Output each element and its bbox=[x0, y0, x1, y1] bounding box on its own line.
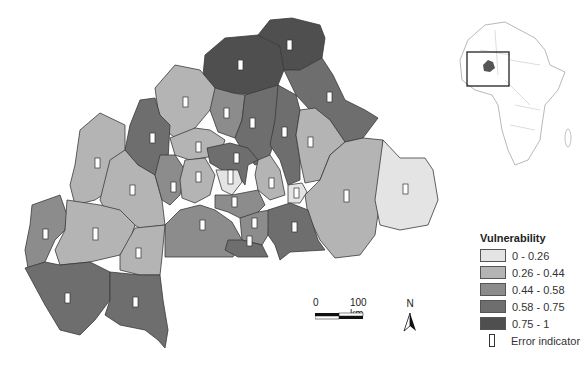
legend-item-error: Error indicator bbox=[480, 332, 585, 349]
error-indicator bbox=[234, 153, 239, 163]
legend-swatch bbox=[480, 300, 506, 313]
legend-label: 0.75 - 1 bbox=[512, 318, 549, 330]
region-poni bbox=[105, 272, 168, 348]
error-indicator bbox=[171, 182, 176, 192]
error-indicator bbox=[238, 60, 243, 70]
legend-title: Vulnerability bbox=[480, 232, 585, 244]
error-indicator-icon bbox=[489, 334, 495, 347]
error-indicator bbox=[269, 178, 274, 188]
error-indicator bbox=[136, 248, 141, 258]
legend-item: 0.44 - 0.58 bbox=[480, 281, 585, 298]
legend-item: 0.75 - 1 bbox=[480, 315, 585, 332]
legend-item: 0.26 - 0.44 bbox=[480, 264, 585, 281]
error-indicator bbox=[294, 188, 299, 198]
legend-label: 0.58 - 0.75 bbox=[512, 301, 565, 313]
error-indicator bbox=[250, 118, 255, 128]
error-indicator bbox=[344, 190, 349, 202]
error-indicator bbox=[183, 97, 188, 107]
legend-label: Error indicator bbox=[511, 335, 580, 347]
legend-label: 0.44 - 0.58 bbox=[512, 284, 565, 296]
error-indicator bbox=[224, 108, 229, 118]
legend-swatch bbox=[480, 283, 506, 296]
error-indicator bbox=[133, 297, 138, 307]
scale-start-label: 0 bbox=[313, 297, 319, 308]
legend-swatch bbox=[480, 317, 506, 330]
region-soum bbox=[203, 35, 284, 95]
legend-swatch bbox=[480, 249, 506, 262]
error-indicator bbox=[130, 185, 135, 195]
error-indicator bbox=[247, 236, 252, 246]
burkina-faso-map bbox=[0, 0, 445, 367]
error-indicator bbox=[200, 220, 205, 230]
africa-locator-map bbox=[450, 10, 585, 190]
legend: Vulnerability 0 - 0.26 0.26 - 0.44 0.44 … bbox=[480, 232, 585, 349]
error-indicator bbox=[93, 228, 98, 240]
error-indicator bbox=[232, 197, 237, 207]
legend-item: 0.58 - 0.75 bbox=[480, 298, 585, 315]
north-arrow: N bbox=[402, 298, 418, 335]
legend-label: 0.26 - 0.44 bbox=[512, 267, 565, 279]
error-indicator bbox=[196, 172, 201, 182]
error-indicator bbox=[150, 133, 155, 143]
legend-label: 0 - 0.26 bbox=[512, 250, 549, 262]
africa-outline bbox=[460, 22, 565, 165]
error-indicator bbox=[228, 170, 233, 184]
north-label: N bbox=[402, 298, 418, 309]
legend-swatch bbox=[480, 266, 506, 279]
error-indicator bbox=[43, 229, 48, 239]
error-indicator bbox=[292, 222, 297, 232]
error-indicator bbox=[308, 137, 313, 147]
legend-item: 0 - 0.26 bbox=[480, 247, 585, 264]
error-indicator bbox=[252, 218, 257, 228]
north-arrow-icon bbox=[403, 313, 417, 333]
error-indicator bbox=[282, 127, 287, 137]
error-indicator bbox=[403, 184, 408, 194]
error-indicator bbox=[287, 40, 292, 50]
scale-bar-graphic bbox=[315, 312, 367, 320]
error-indicator bbox=[65, 293, 70, 303]
error-indicator bbox=[327, 92, 332, 102]
error-indicator bbox=[196, 142, 201, 152]
error-indicator bbox=[95, 158, 100, 168]
